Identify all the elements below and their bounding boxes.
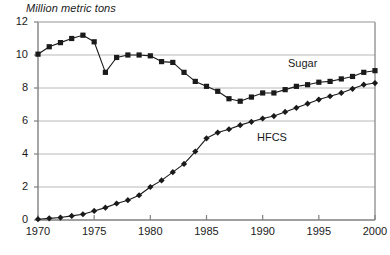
marker-hfcs <box>372 80 378 86</box>
marker-hfcs <box>35 216 41 222</box>
marker-sugar <box>114 55 119 60</box>
marker-hfcs <box>338 90 344 96</box>
marker-hfcs <box>361 82 367 88</box>
x-tick-label: 1980 <box>130 225 170 237</box>
x-tick-label: 1970 <box>18 225 58 237</box>
y-tick-label: 4 <box>6 147 28 159</box>
marker-sugar <box>137 52 142 57</box>
data-series-layer <box>35 33 378 223</box>
marker-hfcs <box>327 93 333 99</box>
marker-sugar <box>215 89 220 94</box>
marker-hfcs <box>349 86 355 92</box>
marker-hfcs <box>316 96 322 102</box>
marker-sugar <box>170 60 175 65</box>
marker-sugar <box>204 84 209 89</box>
series-label-sugar: Sugar <box>288 57 317 69</box>
marker-hfcs <box>271 113 277 119</box>
marker-hfcs <box>114 200 120 206</box>
marker-sugar <box>226 96 231 101</box>
marker-sugar <box>35 52 40 57</box>
plot-area <box>0 0 390 255</box>
x-tick-label: 1975 <box>74 225 114 237</box>
chart-container: Million metric tons 024681012 1970197519… <box>0 0 390 255</box>
marker-sugar <box>271 90 276 95</box>
marker-sugar <box>58 40 63 45</box>
marker-sugar <box>316 80 321 85</box>
marker-sugar <box>181 70 186 75</box>
marker-sugar <box>92 39 97 44</box>
x-tick-label: 1995 <box>299 225 339 237</box>
y-tick-label: 6 <box>6 114 28 126</box>
marker-sugar <box>283 87 288 92</box>
marker-sugar <box>260 90 265 95</box>
y-tick-label: 8 <box>6 81 28 93</box>
marker-hfcs <box>305 101 311 107</box>
series-line-hfcs <box>38 83 375 219</box>
marker-sugar <box>148 53 153 58</box>
marker-sugar <box>350 74 355 79</box>
marker-hfcs <box>215 129 221 135</box>
marker-sugar <box>305 82 310 87</box>
marker-hfcs <box>80 211 86 217</box>
marker-hfcs <box>125 197 131 203</box>
marker-hfcs <box>226 126 232 132</box>
marker-sugar <box>193 79 198 84</box>
x-tick-label: 1990 <box>243 225 283 237</box>
marker-hfcs <box>102 205 108 211</box>
x-tick-marks <box>38 215 375 220</box>
marker-sugar <box>249 94 254 99</box>
series-label-hfcs: HFCS <box>257 131 287 143</box>
marker-hfcs <box>237 122 243 128</box>
series-line-sugar <box>38 35 375 101</box>
y-tick-label: 2 <box>6 180 28 192</box>
marker-hfcs <box>91 208 97 214</box>
marker-sugar <box>361 70 366 75</box>
gridlines <box>38 22 375 187</box>
y-tick-label: 12 <box>6 15 28 27</box>
marker-hfcs <box>248 119 254 125</box>
x-tick-label: 2000 <box>355 225 390 237</box>
marker-sugar <box>372 68 377 73</box>
x-tick-label: 1985 <box>187 225 227 237</box>
marker-sugar <box>327 79 332 84</box>
y-tick-label: 0 <box>6 213 28 225</box>
marker-sugar <box>238 99 243 104</box>
marker-sugar <box>47 44 52 49</box>
marker-sugar <box>339 76 344 81</box>
marker-hfcs <box>282 109 288 115</box>
marker-sugar <box>69 36 74 41</box>
marker-sugar <box>80 33 85 38</box>
marker-sugar <box>294 84 299 89</box>
marker-hfcs <box>69 213 75 219</box>
y-tick-label: 10 <box>6 48 28 60</box>
marker-sugar <box>103 70 108 75</box>
marker-sugar <box>159 59 164 64</box>
marker-hfcs <box>293 105 299 111</box>
marker-sugar <box>125 52 130 57</box>
